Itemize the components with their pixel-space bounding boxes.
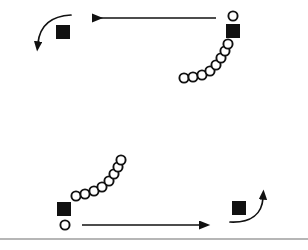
top-left-square-marker (56, 25, 70, 39)
bottom-left-lone-circle (60, 220, 69, 229)
open-circle-marker (71, 191, 80, 200)
lower-circle-trajectory (71, 155, 125, 200)
bottom-right-square-marker (232, 201, 246, 215)
bottom-left-square-marker (57, 202, 71, 216)
open-circle-marker (179, 73, 188, 82)
open-circle-marker (80, 189, 89, 198)
figure-canvas (0, 0, 308, 250)
top-right-square-marker (226, 24, 240, 38)
open-circle-marker (116, 155, 125, 164)
open-circle-marker (188, 72, 197, 81)
upper-circle-trajectory (179, 39, 232, 82)
top-right-lone-circle (228, 11, 237, 20)
open-circle-marker (223, 39, 232, 48)
motion-schematic-figure (0, 0, 308, 250)
